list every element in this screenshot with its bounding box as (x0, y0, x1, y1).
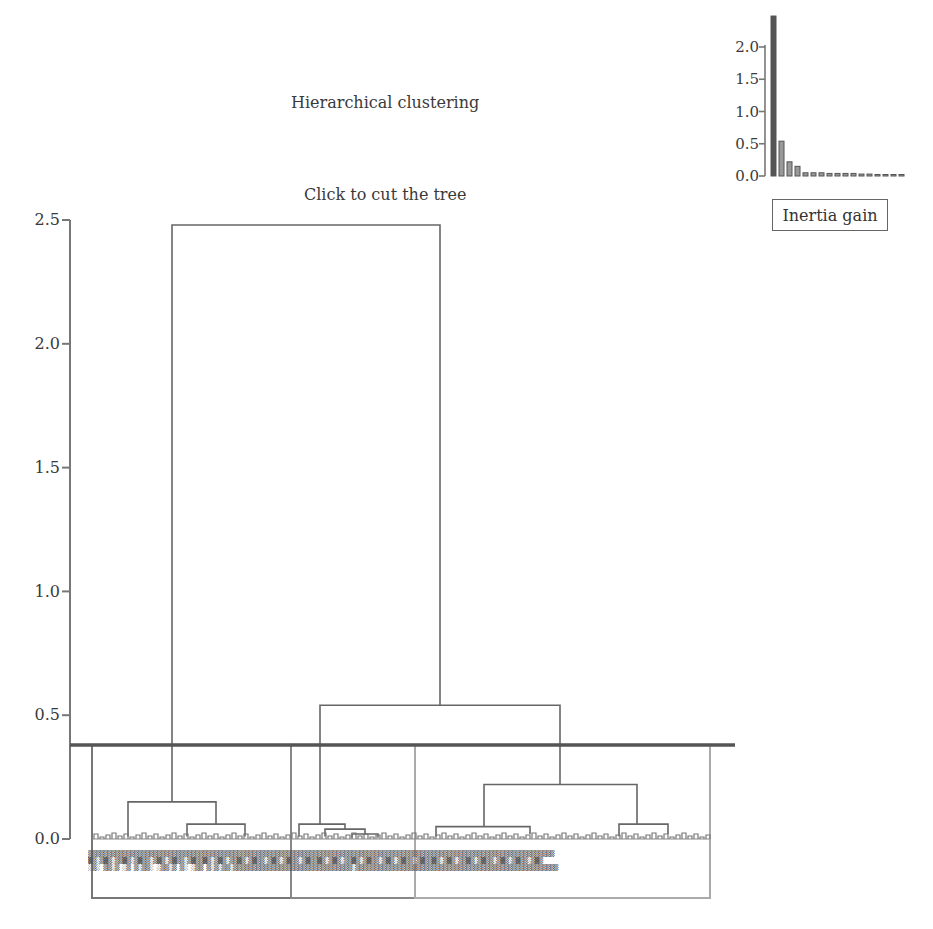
inertia-bar (827, 173, 832, 176)
cluster-box (92, 745, 291, 898)
y-axis (62, 220, 70, 839)
inertia-bar (787, 162, 792, 176)
cluster-boxes (92, 745, 710, 898)
merge-link (320, 705, 560, 824)
dendrogram-plot[interactable] (0, 0, 933, 929)
inertia-bar (771, 16, 776, 176)
inertia-bar (795, 166, 800, 176)
leaf-ticks (92, 833, 710, 839)
merge-link (128, 802, 216, 837)
inertia-bar (875, 175, 880, 177)
leaf-labels-row-1: ▒▒▒▒▒▒▒▒▒▒▒▒▒▒▒▒▒▒▒▒▒▒▒▒▒▒▒▒▒▒▒▒▒▒▒▒▒▒▒▒… (88, 850, 710, 857)
cluster-box (291, 745, 415, 898)
leaf-labels-row-3: ░▒░ ▒▒░▒ ░▒ ▒░▒▒░ ░▒▒░▒ ▒░ ░▒▒ ▒░▒░▒▒░▒▒… (88, 864, 710, 871)
inertia-bar (851, 173, 856, 176)
inertia-bar (843, 173, 848, 176)
inertia-bar (835, 173, 840, 176)
inertia-bar (811, 173, 816, 176)
inertia-bar (779, 141, 784, 176)
cluster-box (415, 745, 710, 898)
inertia-bar (859, 174, 864, 176)
inertia-gain-barplot[interactable] (759, 16, 904, 176)
inertia-bar (867, 174, 872, 176)
merge-link (172, 225, 440, 745)
merge-link (436, 827, 530, 837)
inertia-bar (899, 175, 904, 177)
inertia-bar (819, 173, 824, 176)
leaf-labels-row-2: ▓▒░▒▓▒░▒▒▓▒░▒▓▒▒░▒▓▒░▒▓▒▒░▒▓▒▒▓▒░▒▓▒░▒▒▓… (88, 857, 710, 864)
inertia-bar (883, 175, 888, 177)
inertia-bar (803, 173, 808, 176)
inertia-gain-button[interactable]: Inertia gain (772, 199, 888, 231)
merge-link (484, 785, 637, 827)
inertia-bar (891, 175, 896, 177)
